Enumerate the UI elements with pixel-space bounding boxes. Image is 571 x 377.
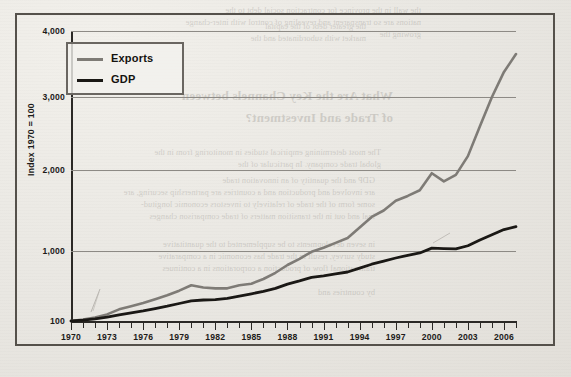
x-tick	[167, 322, 168, 328]
legend-swatch-exports	[77, 58, 103, 61]
x-tick-label: 1994	[350, 332, 370, 342]
x-tick	[480, 322, 481, 328]
x-tick	[263, 322, 264, 328]
x-tick	[287, 322, 288, 330]
x-tick	[456, 322, 457, 328]
x-tick	[155, 322, 156, 328]
x-tick	[372, 322, 373, 328]
x-tick-label: 1973	[97, 332, 117, 342]
x-tick-label: 1988	[278, 332, 298, 342]
x-tick	[215, 322, 216, 330]
x-tick	[396, 322, 397, 330]
y-tick-label: 100	[50, 316, 65, 326]
x-tick	[275, 322, 276, 328]
x-tick	[251, 322, 252, 330]
x-tick-label: 1991	[314, 332, 334, 342]
x-tick	[131, 322, 132, 328]
x-tick	[348, 322, 349, 328]
x-tick	[324, 322, 325, 330]
x-tick	[468, 322, 469, 330]
pencil-mark-annotation-2	[432, 231, 452, 245]
x-tick	[408, 322, 409, 328]
x-tick	[227, 322, 228, 328]
legend-label-gdp: GDP	[111, 73, 135, 85]
x-tick	[504, 322, 505, 330]
x-tick	[71, 322, 72, 330]
y-tick-label: 1,000	[42, 246, 65, 256]
x-tick-label: 1997	[386, 332, 406, 342]
x-tick-label: 2000	[422, 332, 442, 342]
x-tick	[312, 322, 313, 328]
y-tick-label: 3,000	[42, 92, 65, 102]
x-tick	[191, 322, 192, 328]
pencil-mark-annotation	[88, 288, 102, 314]
legend-swatch-gdp	[77, 79, 103, 82]
legend-label-exports: Exports	[111, 52, 153, 64]
x-tick-label: 2006	[494, 332, 514, 342]
y-tick-label: 2,000	[42, 165, 65, 175]
y-axis-label: Index 1970 = 100	[26, 103, 36, 176]
x-tick-label: 2003	[458, 332, 478, 342]
x-tick-label: 1985	[241, 332, 261, 342]
x-tick	[360, 322, 361, 330]
x-tick	[492, 322, 493, 328]
x-tick-label: 1979	[169, 332, 189, 342]
x-tick	[300, 322, 301, 328]
x-tick	[203, 322, 204, 328]
x-tick	[239, 322, 240, 328]
x-tick	[336, 322, 337, 328]
x-tick	[432, 322, 433, 330]
x-tick	[143, 322, 144, 330]
x-tick	[420, 322, 421, 328]
y-tick-label: 4,000	[42, 26, 65, 36]
x-tick	[516, 322, 517, 328]
x-tick	[119, 322, 120, 328]
x-tick	[95, 322, 96, 328]
x-tick-label: 1976	[133, 332, 153, 342]
x-tick-label: 1982	[205, 332, 225, 342]
x-tick-label: 1970	[61, 332, 81, 342]
chart-legend: Exports GDP	[66, 42, 184, 95]
x-tick	[83, 322, 84, 328]
x-tick	[107, 322, 108, 330]
x-tick	[384, 322, 385, 328]
x-tick	[179, 322, 180, 330]
x-tick	[444, 322, 445, 328]
